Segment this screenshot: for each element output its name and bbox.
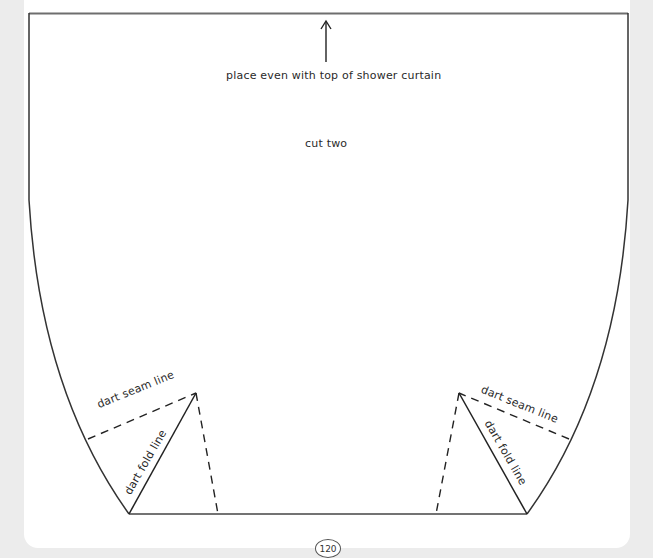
cut-instruction: cut two bbox=[305, 137, 347, 150]
arrow-up-icon bbox=[321, 21, 331, 62]
right-dart-fold-line bbox=[459, 393, 527, 514]
left-dart-edge-line bbox=[196, 393, 218, 514]
right-dart-edge-line bbox=[436, 393, 459, 514]
left-outline-curve bbox=[29, 13, 129, 514]
placement-note: place even with top of shower curtain bbox=[226, 69, 441, 82]
right-outline-curve bbox=[527, 13, 628, 514]
left-dart-fold-line bbox=[129, 393, 196, 514]
page-number-badge: 120 bbox=[315, 539, 341, 558]
pattern-drawing bbox=[0, 0, 653, 558]
